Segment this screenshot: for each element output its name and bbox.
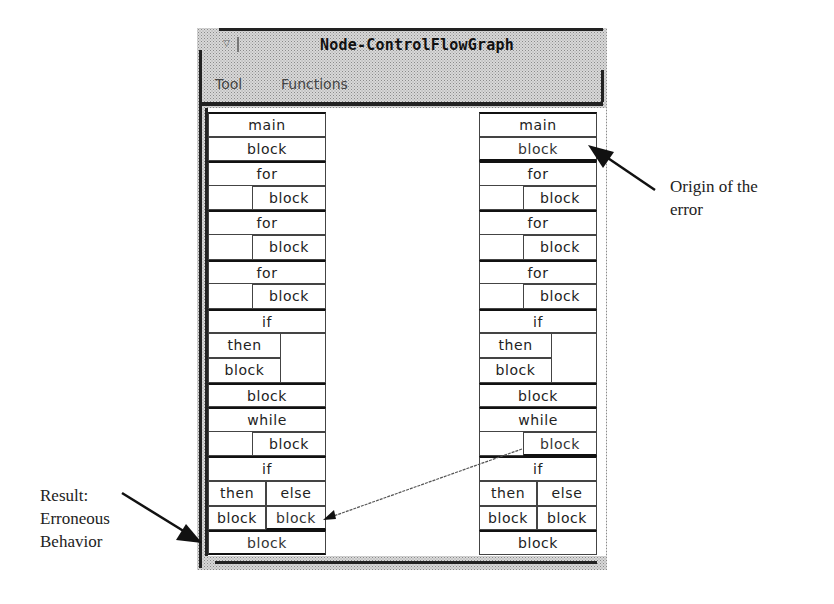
left-node-for1[interactable]: for bbox=[208, 161, 326, 186]
left-node-if2-then[interactable]: then bbox=[208, 481, 266, 506]
control-flow-graph-window: ▽ Node-ControlFlowGraph Tool Functions m… bbox=[197, 28, 607, 570]
origin-annotation: Origin of the error bbox=[670, 175, 758, 221]
left-node-while[interactable]: while bbox=[208, 407, 326, 432]
right-node-if2-then[interactable]: then bbox=[479, 481, 537, 506]
right-node-if2[interactable]: if bbox=[479, 456, 597, 481]
origin-annotation-line2: error bbox=[670, 198, 758, 221]
result-annotation-line3: Behavior bbox=[40, 530, 110, 553]
right-node-for2[interactable]: for bbox=[479, 210, 597, 235]
right-node-for2-block[interactable]: block bbox=[523, 235, 597, 260]
right-node-if1-then[interactable]: then bbox=[479, 333, 552, 358]
left-node-while-block[interactable]: block bbox=[252, 432, 326, 457]
graph-canvas: mainblockforblockforblockforblockifthenb… bbox=[205, 108, 606, 556]
right-node-main[interactable]: main bbox=[479, 112, 597, 137]
result-annotation: Result: Erroneous Behavior bbox=[40, 484, 110, 553]
right-node-if2-else[interactable]: else bbox=[537, 481, 597, 506]
left-node-block1[interactable]: block bbox=[208, 137, 326, 162]
left-node-for3[interactable]: for bbox=[208, 260, 326, 285]
window-border-right bbox=[601, 70, 604, 102]
origin-annotation-line1: Origin of the bbox=[670, 175, 758, 198]
window-border-bottom bbox=[215, 561, 597, 564]
menu-bar: Tool Functions bbox=[205, 68, 597, 102]
menu-separator bbox=[201, 102, 603, 106]
right-node-for3[interactable]: for bbox=[479, 260, 597, 285]
left-node-if2-else[interactable]: else bbox=[266, 481, 326, 506]
right-node-if1[interactable]: if bbox=[479, 309, 597, 334]
window-border-left bbox=[199, 50, 202, 568]
left-node-block2[interactable]: block bbox=[208, 383, 326, 408]
title-bar[interactable]: ▽ Node-ControlFlowGraph bbox=[197, 28, 607, 64]
right-node-if1-then-block[interactable]: block bbox=[479, 358, 552, 383]
left-node-if2-then-block[interactable]: block bbox=[208, 506, 266, 531]
left-node-for3-block[interactable]: block bbox=[252, 284, 326, 309]
left-node-for1-block[interactable]: block bbox=[252, 186, 326, 211]
menu-functions[interactable]: Functions bbox=[281, 76, 348, 92]
right-node-while-block[interactable]: block bbox=[523, 432, 597, 457]
result-arrow bbox=[122, 493, 190, 535]
right-node-if2-then-block[interactable]: block bbox=[479, 506, 537, 531]
right-node-for1[interactable]: for bbox=[479, 161, 597, 186]
right-node-block2[interactable]: block bbox=[479, 383, 597, 408]
right-node-for1-block[interactable]: block bbox=[523, 186, 597, 211]
right-node-block3[interactable]: block bbox=[479, 530, 597, 555]
left-node-if1-then-block[interactable]: block bbox=[208, 358, 281, 383]
left-node-main[interactable]: main bbox=[208, 112, 326, 137]
left-node-if1[interactable]: if bbox=[208, 309, 326, 334]
result-annotation-line1: Result: bbox=[40, 484, 110, 507]
result-annotation-line2: Erroneous bbox=[40, 507, 110, 530]
left-node-for2-block[interactable]: block bbox=[252, 235, 326, 260]
right-node-for3-block[interactable]: block bbox=[523, 284, 597, 309]
right-node-block1[interactable]: block bbox=[479, 137, 597, 162]
left-node-if1-then[interactable]: then bbox=[208, 333, 281, 358]
left-node-for2[interactable]: for bbox=[208, 210, 326, 235]
left-node-if2[interactable]: if bbox=[208, 456, 326, 481]
window-title: Node-ControlFlowGraph bbox=[197, 36, 607, 54]
left-node-block3[interactable]: block bbox=[208, 530, 326, 555]
right-node-if2-else-block[interactable]: block bbox=[537, 506, 597, 531]
right-node-while[interactable]: while bbox=[479, 407, 597, 432]
left-node-if2-else-block[interactable]: block bbox=[266, 506, 326, 531]
menu-tool[interactable]: Tool bbox=[215, 76, 242, 92]
